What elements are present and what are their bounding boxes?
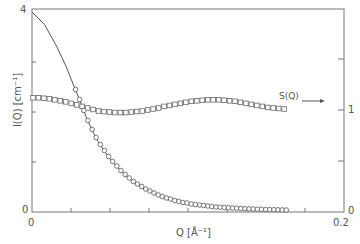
y2-tick-label-one: 1	[348, 105, 354, 115]
y-tick-label-top: 4	[20, 5, 26, 15]
x-tick-label-zero: 0	[28, 218, 34, 228]
axis-ticks	[32, 59, 344, 212]
fit-curve	[32, 12, 286, 211]
y-tick-label-zero: 0	[22, 205, 28, 215]
sq-series	[31, 95, 287, 114]
x-tick-label-end: 0.2	[333, 218, 349, 228]
y2-tick-label-zero: 0	[348, 206, 354, 216]
chart-plot-area	[0, 0, 360, 244]
plot-frame	[32, 9, 344, 212]
x-axis-label: Q [Å⁻¹]	[176, 228, 211, 238]
y-axis-label: I(Q) [cm⁻¹]	[13, 60, 23, 140]
arrow-icon	[302, 99, 325, 103]
sq-annotation: S(Q)	[279, 92, 299, 101]
